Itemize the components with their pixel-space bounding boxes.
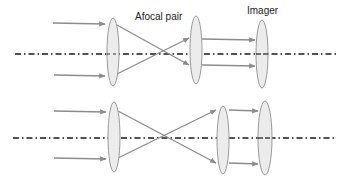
parallel-ray-upper <box>202 39 255 40</box>
afocal-lens-2-top <box>190 16 202 84</box>
incoming-ray-upper <box>53 23 105 24</box>
crossing-ray-2 <box>117 38 189 74</box>
incoming-ray-lower <box>54 75 105 76</box>
incoming-ray-upper <box>54 111 106 112</box>
optical-diagram <box>0 0 350 185</box>
lens-1-top <box>107 18 119 86</box>
parallel-ray-lower <box>229 163 258 164</box>
parallel-ray-upper <box>229 110 258 111</box>
bottom-configuration <box>13 101 337 175</box>
imager-label: Imager <box>247 5 278 16</box>
lens-1-bottom <box>108 102 120 172</box>
crossing-ray-1 <box>117 25 189 65</box>
incoming-ray-lower <box>54 158 106 159</box>
crossing-ray-2 <box>118 110 216 158</box>
afocal-lens-2-bottom <box>217 106 229 174</box>
top-configuration <box>15 16 337 88</box>
crossing-ray-1 <box>118 111 216 163</box>
parallel-ray-lower <box>202 65 255 66</box>
afocal-pair-label: Afocal pair <box>135 11 182 22</box>
